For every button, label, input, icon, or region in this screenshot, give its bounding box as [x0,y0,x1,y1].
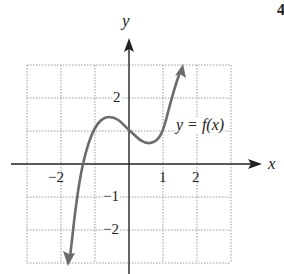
curve-label: y = f(x) [175,117,225,133]
corner-mark: 4 [277,2,284,18]
y-tick-neg1: −1 [103,189,119,204]
x-axis-label: x [268,155,276,172]
function-graph [0,0,284,274]
curve-arrow-up-icon [175,64,186,78]
x-tick-neg2: −2 [48,170,64,185]
y-axis-label: y [122,12,130,29]
x-tick-1: 1 [159,170,167,185]
curve-arrow-down-icon [63,251,75,266]
x-tick-2: 2 [192,170,200,185]
y-tick-2: 2 [113,90,121,105]
axes [11,48,256,274]
y-tick-neg2: −2 [103,222,119,237]
